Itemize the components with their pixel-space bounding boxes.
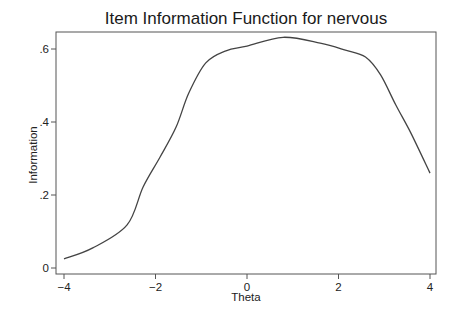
information-curve bbox=[64, 37, 430, 259]
y-axis: 0.2.4.6 bbox=[39, 43, 56, 274]
x-tick-label: 2 bbox=[335, 281, 341, 293]
y-tick-label: .4 bbox=[39, 116, 49, 128]
y-tick-label: .2 bbox=[39, 189, 49, 201]
chart-title: Item Information Function for nervous bbox=[105, 9, 388, 28]
x-tick-label: −4 bbox=[57, 281, 71, 293]
chart: Item Information Function for nervous 0.… bbox=[0, 0, 458, 315]
x-tick-label: −2 bbox=[149, 281, 162, 293]
plot-frame bbox=[56, 32, 436, 274]
x-axis-label: Theta bbox=[231, 291, 261, 303]
x-tick-label: 4 bbox=[427, 281, 434, 293]
y-tick-label: .6 bbox=[39, 43, 49, 55]
y-tick-label: 0 bbox=[43, 262, 49, 274]
y-axis-label: Information bbox=[27, 126, 39, 184]
